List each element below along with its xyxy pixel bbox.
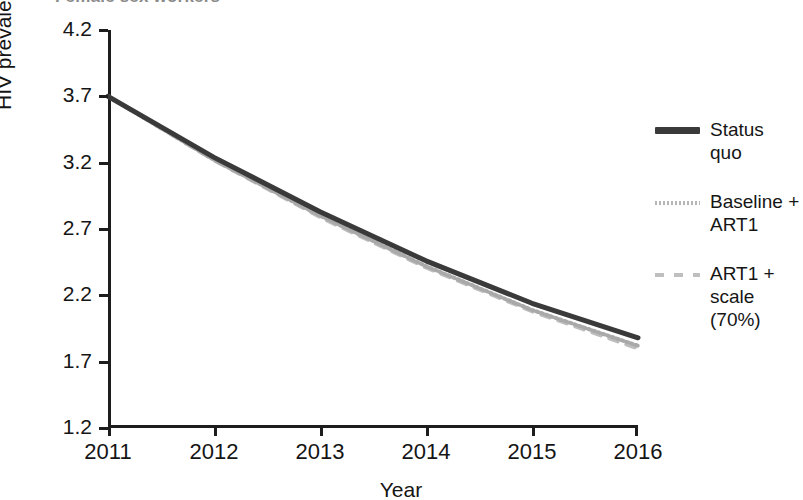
legend-item-status-quo[interactable]: Status quo: [655, 118, 803, 164]
y-axis-tick: [99, 361, 108, 364]
y-axis-tick-label: 2.2: [0, 282, 92, 306]
x-axis-tick: [426, 428, 429, 436]
legend-label-status-quo: Status quo: [710, 118, 803, 164]
x-axis-tick: [635, 428, 638, 436]
x-axis-tick-label: 2013: [296, 439, 345, 465]
chart-legend: Status quo Baseline + ART1 ART1 + scale …: [655, 118, 803, 334]
x-axis-tick-label: 2011: [84, 439, 131, 465]
y-axis-tick-label: 1.2: [0, 415, 92, 439]
y-axis-tick: [99, 162, 108, 165]
dotted-gray-line-icon: [655, 201, 700, 205]
legend-label-line-2: scale (70%): [710, 285, 803, 331]
series-line-status-quo: [108, 96, 638, 337]
legend-label-line-2: ART1: [710, 213, 803, 236]
x-axis-tick: [214, 428, 217, 436]
y-axis-tick: [99, 228, 108, 231]
legend-label-line-1: Baseline +: [710, 190, 803, 213]
plot-area: [108, 30, 638, 428]
legend-label-line-2: quo: [710, 141, 803, 164]
legend-label-art1-scale: ART1 + scale (70%): [710, 262, 803, 331]
solid-thick-dark-line-icon: [655, 127, 700, 134]
x-axis-tick: [108, 428, 111, 436]
y-axis-tick-label: 3.2: [0, 150, 92, 174]
chart-title: Female sex workers: [55, 0, 220, 7]
y-axis-tick-label: 1.7: [0, 349, 92, 373]
series-line-baseline-art1: [108, 96, 638, 345]
hiv-prevalence-line-chart: Female sex workers 1.21.72.22.73.23.74.2…: [0, 0, 803, 500]
x-axis-tick: [320, 428, 323, 436]
y-axis-tick: [99, 427, 108, 430]
legend-item-art1-scale[interactable]: ART1 + scale (70%): [655, 262, 803, 308]
legend-item-baseline-art1[interactable]: Baseline + ART1: [655, 190, 803, 236]
x-axis-tick-label: 2016: [614, 439, 663, 465]
legend-label-baseline-art1: Baseline + ART1: [710, 190, 803, 236]
y-axis-tick-label: 2.7: [0, 216, 92, 240]
y-axis-tick: [99, 294, 108, 297]
x-axis-tick-label: 2015: [508, 439, 557, 465]
y-axis-tick: [99, 29, 108, 32]
series-lines: [108, 30, 638, 428]
x-axis-tick-label: 2012: [190, 439, 239, 465]
y-axis-title: HIV prevalence (percent): [0, 0, 16, 110]
dashed-light-gray-line-icon: [655, 273, 700, 277]
legend-label-line-1: Status: [710, 118, 803, 141]
x-axis-tick: [532, 428, 535, 436]
x-axis-title: Year: [380, 478, 422, 500]
x-axis-tick-label: 2014: [402, 439, 451, 465]
legend-label-line-1: ART1 +: [710, 262, 803, 285]
y-axis-tick: [99, 95, 108, 98]
